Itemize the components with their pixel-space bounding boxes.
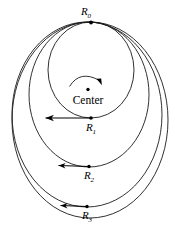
label-r1-sub: 1 (93, 128, 97, 136)
orbit-ellipse-4 (12, 22, 168, 218)
orbit-curves (12, 22, 168, 218)
orbit-diagram: R0 Center R1 R2 R3 (0, 0, 175, 237)
rotation-arc-arrow (70, 76, 105, 86)
label-r2-sub: 2 (91, 176, 95, 184)
point-marker-r2 (87, 165, 90, 168)
labels: R0 Center R1 R2 R3 (73, 5, 104, 224)
center-dot (86, 88, 89, 91)
velocity-arrow-r2 (59, 166, 90, 167)
point-marker-r0 (89, 21, 93, 25)
velocity-arrow-r3 (61, 206, 88, 207)
label-r3-sub: 3 (88, 216, 93, 224)
label-center: Center (73, 94, 104, 106)
label-r0-sub: 0 (88, 12, 92, 20)
point-marker-r1 (89, 116, 93, 120)
velocity-vectors (46, 118, 92, 207)
label-r1: R1 (85, 121, 96, 136)
point-marker-r3 (85, 205, 88, 208)
label-r3: R3 (81, 209, 93, 224)
label-r2: R2 (83, 169, 95, 184)
label-r0: R0 (80, 5, 92, 20)
